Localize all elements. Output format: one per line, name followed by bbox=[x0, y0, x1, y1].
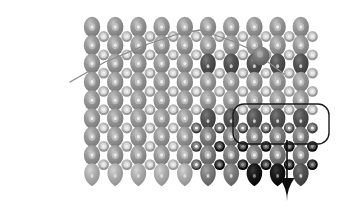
ring-core bbox=[218, 72, 221, 75]
ring-core bbox=[311, 163, 314, 166]
lattice-ring-atom bbox=[121, 104, 132, 115]
atom-core bbox=[91, 80, 94, 84]
atom-core bbox=[137, 135, 140, 139]
atom-highlight bbox=[230, 174, 233, 178]
atom-core bbox=[230, 98, 233, 102]
ring-core bbox=[102, 72, 105, 75]
figure-canvas bbox=[0, 0, 340, 208]
ring-core bbox=[102, 145, 105, 148]
ring-core bbox=[102, 53, 105, 56]
ring-core bbox=[195, 90, 198, 93]
lattice-atom bbox=[223, 145, 239, 165]
lattice-ring-atom bbox=[168, 86, 179, 97]
atom-core bbox=[183, 62, 186, 66]
ring-core bbox=[264, 90, 267, 93]
lattice-ring-atom bbox=[145, 68, 156, 79]
atom-highlight bbox=[230, 119, 233, 123]
atom-core bbox=[137, 25, 140, 29]
ring-core bbox=[125, 145, 128, 148]
lattice-ring-atom bbox=[168, 49, 179, 60]
atom-core bbox=[207, 153, 210, 157]
lattice-atom bbox=[246, 145, 262, 165]
atom-core bbox=[276, 98, 279, 102]
lattice-atom bbox=[200, 127, 216, 147]
lattice-ring-atom bbox=[121, 68, 132, 79]
lattice-ring-atom bbox=[214, 159, 225, 170]
lattice-ring-atom bbox=[237, 68, 248, 79]
ring-core bbox=[264, 108, 267, 111]
ring-core bbox=[172, 53, 175, 56]
lattice-atom bbox=[107, 72, 123, 92]
lattice-atom bbox=[130, 17, 146, 37]
ring-core bbox=[148, 145, 151, 148]
lattice-ring-atom bbox=[284, 123, 295, 134]
atom-core bbox=[183, 80, 186, 84]
atom-core bbox=[253, 98, 256, 102]
lattice-ring-atom bbox=[98, 141, 109, 152]
lattice-atom bbox=[84, 72, 100, 92]
lattice-ring-atom bbox=[98, 68, 109, 79]
atom-core bbox=[299, 153, 302, 157]
lattice-ring-atom bbox=[168, 104, 179, 115]
atom-core bbox=[230, 80, 233, 84]
lattice-atom bbox=[107, 127, 123, 147]
lattice-ring-atom bbox=[191, 104, 202, 115]
atom-highlight bbox=[160, 174, 163, 178]
ring-core bbox=[148, 126, 151, 129]
lattice-ring-atom bbox=[237, 31, 248, 42]
lattice-atom bbox=[153, 145, 169, 165]
ring-core bbox=[148, 53, 151, 56]
atom-core bbox=[183, 117, 186, 121]
lattice-ring-atom bbox=[307, 68, 318, 79]
lattice-atom bbox=[246, 72, 262, 92]
lattice-atom bbox=[130, 53, 146, 73]
lattice-ring-atom bbox=[214, 123, 225, 134]
lattice-atom bbox=[200, 90, 216, 110]
lattice-atom bbox=[200, 145, 216, 165]
atom-highlight bbox=[299, 64, 302, 68]
atom-core bbox=[299, 135, 302, 139]
ring-core bbox=[218, 163, 221, 166]
lattice-atom bbox=[177, 53, 193, 73]
lattice-ring-atom bbox=[307, 104, 318, 115]
atom-core bbox=[137, 117, 140, 121]
lattice-atom bbox=[84, 145, 100, 165]
ring-core bbox=[195, 72, 198, 75]
atom-core bbox=[230, 153, 233, 157]
lattice-atom bbox=[293, 72, 309, 92]
lattice-atom bbox=[269, 145, 285, 165]
atom-highlight bbox=[183, 174, 186, 178]
atom-core bbox=[276, 80, 279, 84]
lattice-ring-atom bbox=[237, 49, 248, 60]
ring-core bbox=[218, 145, 221, 148]
atom-highlight bbox=[207, 64, 210, 68]
atom-core bbox=[160, 98, 163, 102]
ring-core bbox=[241, 145, 244, 148]
lattice-atom bbox=[269, 17, 285, 37]
atom-core bbox=[114, 62, 117, 66]
lattice-ring-atom bbox=[191, 141, 202, 152]
atom-core bbox=[137, 80, 140, 84]
ring-core bbox=[311, 108, 314, 111]
lattice-atom bbox=[177, 108, 193, 128]
lattice-ring-atom bbox=[261, 123, 272, 134]
lattice-atom bbox=[153, 90, 169, 110]
lattice-ring-atom bbox=[237, 123, 248, 134]
lattice-atom bbox=[246, 90, 262, 110]
ring-core bbox=[172, 126, 175, 129]
lattice-atom bbox=[130, 90, 146, 110]
atom-core bbox=[91, 117, 94, 121]
lattice-atom bbox=[107, 17, 123, 37]
atom-core bbox=[114, 80, 117, 84]
ring-core bbox=[264, 163, 267, 166]
lattice-atom bbox=[130, 108, 146, 128]
lattice-atom bbox=[84, 90, 100, 110]
atom-core bbox=[137, 98, 140, 102]
ring-core bbox=[288, 163, 291, 166]
ring-core bbox=[241, 90, 244, 93]
lattice-ring-atom bbox=[98, 86, 109, 97]
ring-core bbox=[288, 145, 291, 148]
ring-core bbox=[102, 35, 105, 38]
ring-core bbox=[102, 126, 105, 129]
lattice-ring-atom bbox=[168, 141, 179, 152]
